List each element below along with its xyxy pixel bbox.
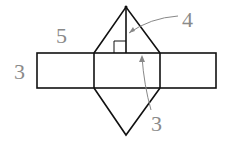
label-base: 3 — [151, 111, 162, 136]
label-triangle-height: 4 — [182, 7, 193, 32]
top-triangle — [94, 7, 160, 53]
right-angle-mark — [114, 41, 126, 53]
label-rect-height: 3 — [14, 59, 25, 84]
label-slant-side: 5 — [56, 23, 67, 48]
apex-point — [125, 6, 128, 9]
rectangle-strip — [37, 53, 216, 88]
arrowhead-4 — [129, 27, 135, 33]
arrowhead-3 — [139, 55, 145, 62]
prism-net-diagram: 5 3 4 3 — [0, 0, 226, 148]
leader-line-4 — [129, 16, 178, 33]
